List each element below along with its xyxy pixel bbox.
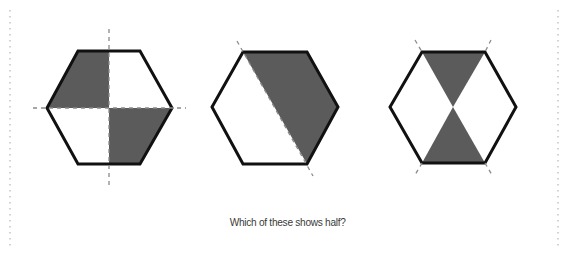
diagonal-dashed-line-1: [415, 40, 422, 52]
question-text: Which of these shows half?: [23, 216, 553, 228]
shaded-bottom-triangle: [422, 107, 485, 163]
hexagon-quarters-figure[interactable]: [33, 29, 186, 189]
diagonal-dashed-line-2: [485, 40, 491, 52]
shaded-bottom-right-quarter: [109, 108, 172, 164]
hexagon-bowtie-figure[interactable]: [390, 40, 516, 175]
shaded-top-triangle: [422, 52, 485, 107]
diagonal-dashed-line-1-end: [485, 163, 492, 175]
shaded-top-left-quarter: [47, 51, 109, 108]
diagonal-dashed-line-2-end: [415, 163, 422, 175]
hexagon-diagonal-figure[interactable]: [212, 41, 338, 176]
shaded-right-half: [243, 52, 338, 164]
